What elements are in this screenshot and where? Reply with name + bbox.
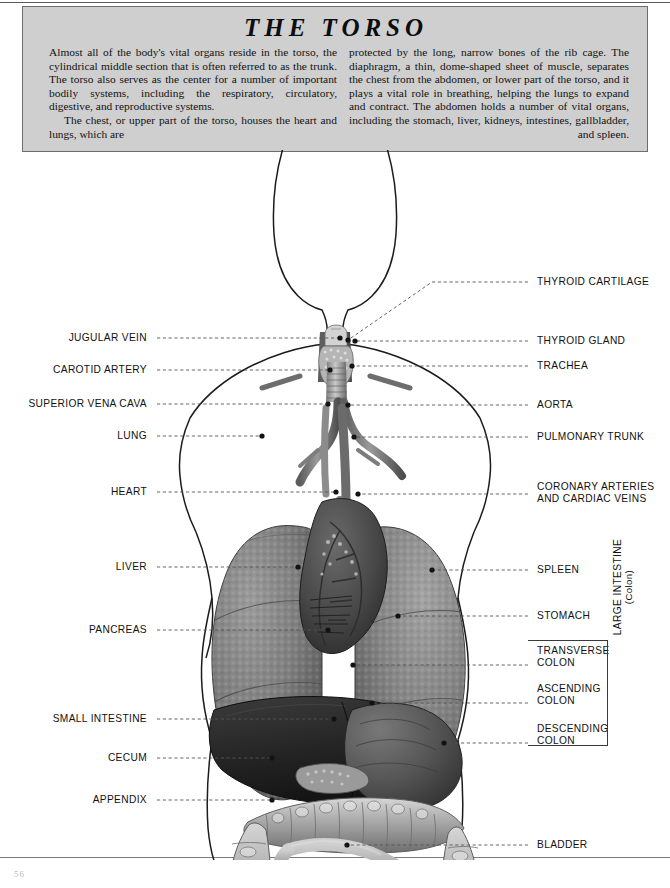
page-number: 56 <box>14 869 25 879</box>
label-bladder: BLADDER <box>537 839 588 851</box>
intro-paragraph-1: Almost all of the body's vital organs re… <box>49 46 337 114</box>
intro-paragraph-2: The chest, or upper part of the torso, h… <box>49 114 337 141</box>
label-liver: LIVER <box>0 561 147 573</box>
label-lung: LUNG <box>0 430 147 442</box>
large-intestine-group-label-line1: LARGE INTESTINE <box>612 539 623 636</box>
label-heart: HEART <box>0 486 147 498</box>
label-jugular-vein: JUGULAR VEIN <box>0 332 147 344</box>
header-box: THE TORSO Almost all of the body's vital… <box>22 6 648 152</box>
label-thyroid-cartilage: THYROID CARTILAGE <box>537 276 649 288</box>
label-cecum: CECUM <box>0 752 147 764</box>
large-intestine-bracket <box>528 640 608 746</box>
large-intestine-group-label: LARGE INTESTINE (Colon) <box>612 534 632 640</box>
label-pulmonary-trunk: PULMONARY TRUNK <box>537 431 644 443</box>
leader-thyroid-cartilage <box>348 282 528 340</box>
label-stomach: STOMACH <box>537 610 590 622</box>
label-aorta: AORTA <box>537 399 573 411</box>
label-coronary-arteries-line1: CORONARY ARTERIES <box>537 481 654 493</box>
page-title: THE TORSO <box>23 14 649 42</box>
thyroid-cartilage-shape <box>325 325 347 346</box>
label-coronary-arteries-line2: AND CARDIAC VEINS <box>537 493 654 505</box>
label-superior-vena-cava: SUPERIOR VENA CAVA <box>0 398 147 410</box>
label-carotid-artery: CAROTID ARTERY <box>0 364 147 376</box>
intro-text-right-column: protected by the long, narrow bones of t… <box>349 46 629 141</box>
label-pancreas: PANCREAS <box>0 624 147 636</box>
neck-structures <box>262 325 410 402</box>
label-thyroid-gland: THYROID GLAND <box>537 335 625 347</box>
intro-paragraph-3: protected by the long, narrow bones of t… <box>349 46 629 141</box>
page-top-rule <box>0 2 670 3</box>
label-small-intestine: SMALL INTESTINE <box>0 713 147 725</box>
label-appendix: APPENDIX <box>0 794 147 806</box>
label-trachea: TRACHEA <box>537 360 588 372</box>
large-intestine-group-label-line2: (Colon) <box>623 570 634 604</box>
label-spleen: SPLEEN <box>537 564 579 576</box>
label-coronary-arteries: CORONARY ARTERIES AND CARDIAC VEINS <box>537 481 654 504</box>
intro-text-left-column: Almost all of the body's vital organs re… <box>49 46 337 141</box>
